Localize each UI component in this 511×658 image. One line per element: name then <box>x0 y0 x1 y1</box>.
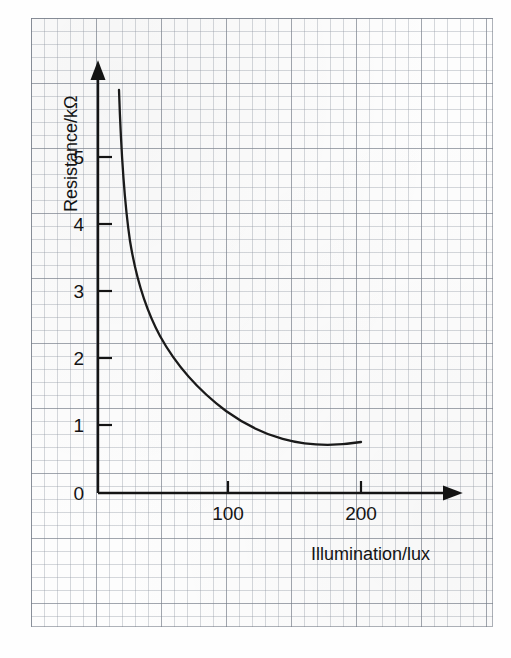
x-tick-label-200: 200 <box>331 504 391 523</box>
y-tick-label-0: 0 <box>62 484 84 503</box>
y-tick-label-1: 1 <box>62 416 84 435</box>
x-tick-marks <box>228 481 361 493</box>
graph-figure: 0 1 2 3 4 5 100 200 Resistance/kΩ Illumi… <box>0 0 511 658</box>
y-axis-title: Resistance/kΩ <box>62 96 80 213</box>
y-tick-marks <box>98 157 112 425</box>
x-axis-title: Illumination/lux <box>311 545 430 563</box>
resistance-curve <box>119 90 361 445</box>
y-tick-label-4: 4 <box>62 215 84 234</box>
x-tick-label-100: 100 <box>198 504 258 523</box>
y-tick-label-3: 3 <box>62 282 84 301</box>
y-tick-label-2: 2 <box>62 349 84 368</box>
